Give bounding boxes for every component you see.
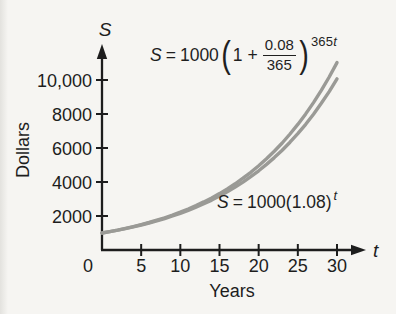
close-paren: ) [299, 39, 309, 71]
x-tick-label: 10 [170, 256, 190, 276]
y-axis-title: Dollars [13, 122, 33, 178]
y-axis-arrowhead [97, 44, 107, 59]
fraction-denominator: 365 [267, 56, 292, 74]
x-tick-label: 20 [249, 256, 269, 276]
y-tick-label: 10,000 [37, 71, 92, 91]
y-tick-label: 2000 [52, 207, 92, 227]
x-tick-label: 30 [327, 256, 347, 276]
one-plus-term: 1 + [233, 45, 258, 66]
equals-sign: = [233, 192, 243, 213]
equation-lhs: S [217, 192, 229, 213]
open-paren: ( [221, 39, 231, 71]
exponent-variable: t [334, 188, 338, 203]
equation-annual-compounding: S = 1000(1.08) t [217, 192, 337, 213]
x-tick-label: 0 [83, 256, 93, 276]
x-tick-label: 15 [209, 256, 229, 276]
coefficient: 1000 [180, 45, 219, 66]
compound-interest-figure: 200040006000800010,000051015202530Dollar… [0, 0, 396, 314]
fraction: 0.08 365 [263, 37, 296, 74]
x-axis-symbol: t [373, 240, 379, 261]
y-tick-label: 4000 [52, 173, 92, 193]
fraction-numerator: 0.08 [263, 37, 296, 56]
x-tick-label: 5 [136, 256, 146, 276]
x-tick-label: 25 [288, 256, 308, 276]
equation-body: 1000(1.08) [247, 192, 332, 213]
x-axis-title: Years [209, 281, 254, 301]
exponent-number: 365 [311, 34, 333, 49]
equation-lhs: S [150, 45, 162, 66]
x-axis-arrowhead [351, 245, 366, 255]
equation-daily-compounding: S = 1000 ( 1 + 0.08 365 ) 365t [150, 37, 337, 74]
y-tick-label: 8000 [52, 105, 92, 125]
y-axis-symbol: S [99, 19, 112, 40]
exponent-variable: t [333, 34, 337, 49]
exponent: 365t [311, 34, 337, 49]
equals-sign: = [166, 45, 176, 66]
y-tick-label: 6000 [52, 139, 92, 159]
